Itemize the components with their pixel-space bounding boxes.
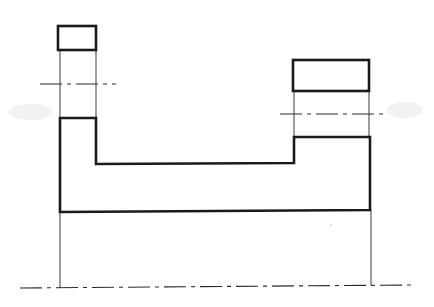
top-view-left-rect	[58, 26, 96, 50]
top-view-right-rect	[293, 60, 369, 91]
technical-drawing	[0, 0, 434, 307]
scan-smudge	[8, 104, 52, 120]
scan-smudge	[387, 102, 423, 118]
scan-speck	[330, 224, 332, 226]
center-line-bottom	[20, 285, 414, 288]
front-view-profile	[60, 118, 370, 212]
